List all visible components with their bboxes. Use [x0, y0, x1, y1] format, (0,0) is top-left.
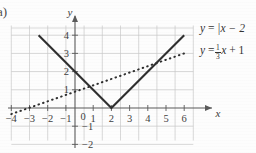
curve-label-linear: y =13x + 1 [200, 44, 244, 62]
y-axis-name: y [67, 6, 73, 18]
y-axis-arrow [72, 15, 78, 22]
y-tick-label: 2 [64, 66, 69, 77]
lin-label-constant: 1 [239, 44, 245, 56]
math-figure: a) [0, 0, 256, 153]
x-axis-name: x [215, 107, 221, 119]
x-tick-label: 6 [182, 113, 187, 124]
lin-label-variable: x [221, 44, 226, 56]
x-tick-label: −2 [42, 113, 53, 124]
x-tick-label: −3 [24, 113, 35, 124]
x-tick-label: 4 [145, 113, 151, 124]
x-tick-label: 5 [163, 113, 168, 124]
fraction-denominator: 3 [215, 53, 221, 62]
lin-label-fraction: 13 [215, 44, 221, 62]
curve-label-absolute-value: y = |x − 2 [200, 22, 245, 34]
curve-linear [11, 53, 184, 114]
y-tick-label: 3 [64, 48, 69, 59]
x-tick-label: 2 [109, 113, 114, 124]
y-tick-label: 1 [64, 84, 69, 95]
abs-label-rhs: |x − 2 [217, 22, 245, 34]
lin-label-eq: = [208, 44, 215, 56]
grid-lines [0, 26, 193, 145]
lin-label-plus: + [229, 44, 236, 56]
axis-arrowheads [72, 15, 212, 111]
y-tick-label: −1 [82, 121, 93, 132]
abs-label-lhs: y [200, 22, 205, 34]
x-tick-labels: −4 −3 −2 −1 1 2 3 4 5 6 [6, 113, 187, 124]
x-tick-label: −1 [60, 113, 71, 124]
x-axis-arrow [205, 105, 212, 111]
x-tick-label: 3 [127, 113, 132, 124]
lin-label-lhs: y [200, 44, 205, 56]
x-tick-label: −4 [6, 113, 18, 124]
y-tick-label: 4 [64, 30, 70, 41]
y-tick-label: −2 [82, 139, 93, 150]
abs-label-eq: = [208, 22, 215, 34]
